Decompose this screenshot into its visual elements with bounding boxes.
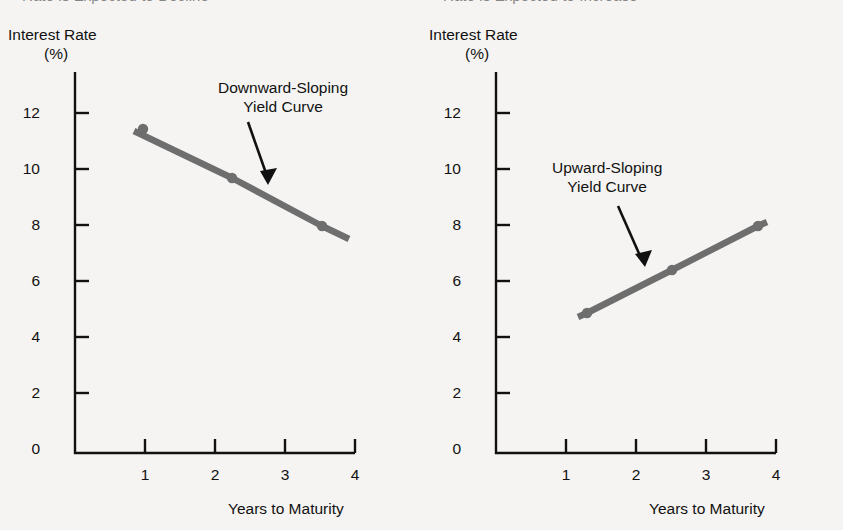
chart-panel-left: Interest Rate (%) 12 10 8 6 4 2 0 1 2 3 … <box>0 0 421 530</box>
plot-area-left <box>0 0 421 530</box>
data-point-marker <box>667 265 677 275</box>
data-point-marker <box>753 221 763 231</box>
annotation-arrow-left <box>248 122 277 185</box>
plot-svg-left <box>0 0 421 530</box>
yield-curve-figure: Rate is Expected to Decline Rate is Expe… <box>0 0 843 530</box>
data-point-marker <box>582 308 592 318</box>
plot-area-right <box>421 0 842 530</box>
data-point-marker <box>317 221 327 231</box>
axis-lines <box>496 72 776 453</box>
data-point-marker <box>138 124 148 134</box>
annotation-arrow-right <box>618 206 652 267</box>
axis-lines <box>75 72 355 453</box>
chart-panel-right: Interest Rate (%) 12 10 8 6 4 2 0 1 2 3 … <box>421 0 842 530</box>
data-series-upward-sloping <box>578 221 767 318</box>
data-series-downward-sloping <box>134 124 349 239</box>
data-point-marker <box>227 173 237 183</box>
y-tick-marks <box>496 113 510 393</box>
x-tick-marks <box>145 439 355 453</box>
curve-line <box>134 131 349 239</box>
y-tick-marks <box>75 113 89 393</box>
plot-svg-right <box>421 0 842 530</box>
x-tick-marks <box>566 439 776 453</box>
